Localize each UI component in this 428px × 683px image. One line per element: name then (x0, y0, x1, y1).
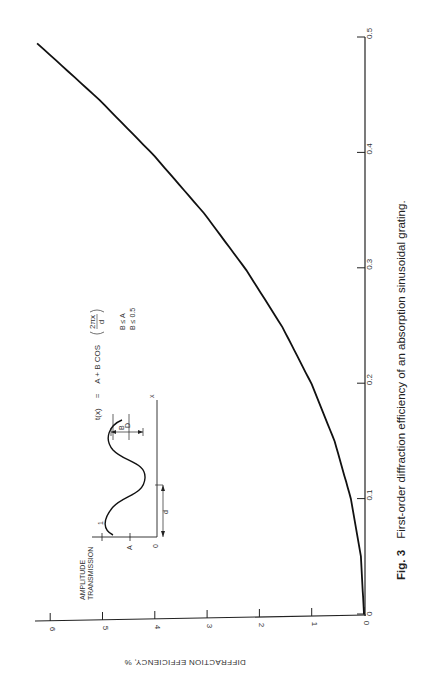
inset-tick-0: 0 (152, 544, 159, 548)
y-tick-label: 0 (362, 621, 371, 626)
y-tick-label: 6 (48, 627, 57, 632)
formula-lhs: t(x) (93, 408, 102, 420)
efficiency-curve (37, 43, 364, 614)
svg-text:t(x) = A + B COS: t(x) = A + B COS (93, 345, 102, 420)
y-tick-label: 1 (310, 622, 319, 627)
caption-text: First-order diffraction efficiency of an… (395, 200, 407, 538)
x-tick-label: 0.1 (365, 489, 374, 501)
x-tick-label: 0.4 (365, 143, 374, 155)
formula: t(x) = A + B COS 2πx d (88, 310, 106, 420)
condition-1: B ≤ A (119, 313, 126, 330)
conditions: B ≤ A B ≤ 0.5 (119, 308, 136, 330)
inset-ylabel-line2: TRANSMISSION (87, 547, 94, 600)
inset-sinusoid (105, 420, 145, 535)
condition-2: B ≤ 0.5 (129, 308, 136, 330)
inset-label-D: D (124, 423, 131, 428)
inset-label-d: d (162, 510, 169, 514)
formula-rhs: A + B COS (93, 345, 102, 384)
y-axis-title: DIFFRACTION EFFICIENCY, % (124, 658, 246, 667)
y-tick-label: 5 (101, 626, 110, 631)
y-axis-line (35, 615, 366, 621)
x-tick-label: 0.2 (365, 374, 374, 386)
formula-frac-den: d (97, 320, 106, 324)
inset-tick-1: 1 (97, 521, 104, 525)
x-tick-label: 0.5 (365, 27, 374, 39)
x-tick-label: 0 (365, 611, 374, 616)
formula-frac-num: 2πx (88, 315, 97, 329)
chart-figure: 00.10.20.30.40.5 0123456 DIFFRACTION EFF… (0, 0, 428, 683)
y-tick-label: 3 (205, 624, 214, 629)
inset-diagram: x 1 A 0 B D d AMPLITUDE TRANSMISSION (79, 394, 169, 600)
figure-caption: Fig. 3 First-order diffraction efficienc… (395, 200, 407, 580)
y-tick-label: 4 (153, 625, 162, 630)
svg-text:Fig. 3 First-order diffr: Fig. 3 First-order diffraction efficienc… (395, 200, 407, 580)
inset-tick-A: A (126, 545, 133, 550)
figure-label: Fig. 3 (395, 550, 407, 580)
inset-x-label: x (148, 394, 155, 398)
x-tick-label: 0.3 (365, 258, 374, 270)
formula-eq: = (93, 393, 102, 398)
y-tick-label: 2 (257, 623, 266, 628)
inset-ylabel-line1: AMPLITUDE (79, 560, 86, 600)
